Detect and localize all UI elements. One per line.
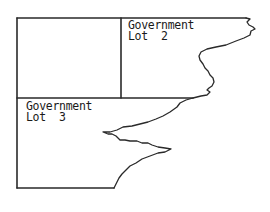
lot-3-label-line2: Lot 3 (26, 110, 66, 124)
lot-2-label: Government Lot 2 (128, 20, 194, 42)
lot-2-label-line2: Lot 2 (128, 29, 168, 43)
lot-3-label: Government Lot 3 (26, 101, 92, 123)
shoreline (103, 18, 255, 188)
